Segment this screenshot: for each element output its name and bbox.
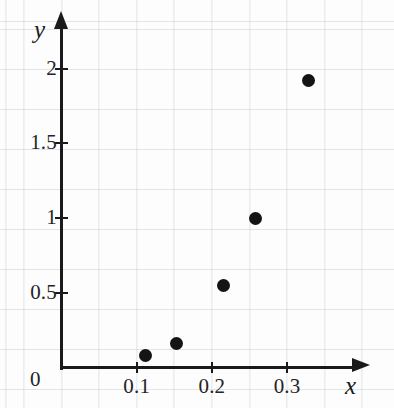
y-axis-label: y: [34, 16, 45, 44]
x-axis-line: [60, 366, 357, 369]
plot-area: y x 0 0.511.52 0.10.20.3: [0, 0, 394, 408]
data-point: [170, 337, 183, 350]
x-tick-mark: [211, 362, 213, 373]
x-tick-label: 0.1: [123, 374, 150, 399]
x-tick-mark: [136, 362, 138, 373]
y-tick-label: 1: [46, 205, 63, 230]
x-tick-mark: [286, 362, 288, 373]
y-tick-label: 2: [46, 56, 63, 81]
x-tick-label: 0.3: [274, 374, 301, 399]
scatter-plot-figure: y x 0 0.511.52 0.10.20.3: [0, 0, 394, 408]
origin-label: 0: [30, 367, 41, 392]
y-axis-arrow-icon: [54, 11, 68, 29]
data-point: [217, 279, 230, 292]
data-point: [249, 212, 262, 225]
data-point: [302, 74, 315, 87]
data-point: [139, 349, 152, 362]
y-tick-label: 1.5: [30, 130, 63, 155]
x-tick-label: 0.2: [198, 374, 225, 399]
x-axis-arrow-icon: [352, 358, 370, 372]
x-axis-label: x: [345, 372, 356, 400]
y-tick-label: 0.5: [30, 280, 63, 305]
